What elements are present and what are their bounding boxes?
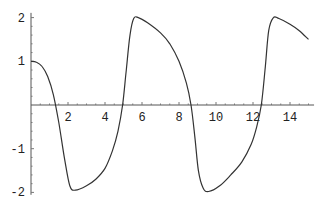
x-tick-label: 2	[64, 111, 71, 125]
y-tick-label: -2	[11, 186, 25, 200]
x-tick-label: 10	[209, 111, 223, 125]
x-tick-label: 4	[101, 111, 108, 125]
y-tick-label: 1	[18, 55, 25, 69]
x-tick-label: 14	[283, 111, 297, 125]
x-tick-label: 8	[175, 111, 182, 125]
y-axis-ticks: -2-112	[11, 12, 34, 201]
line-chart: 2468101214 -2-112	[0, 0, 326, 209]
y-tick-label: -1	[11, 143, 25, 157]
x-tick-label: 6	[138, 111, 145, 125]
y-tick-label: 2	[18, 12, 25, 26]
